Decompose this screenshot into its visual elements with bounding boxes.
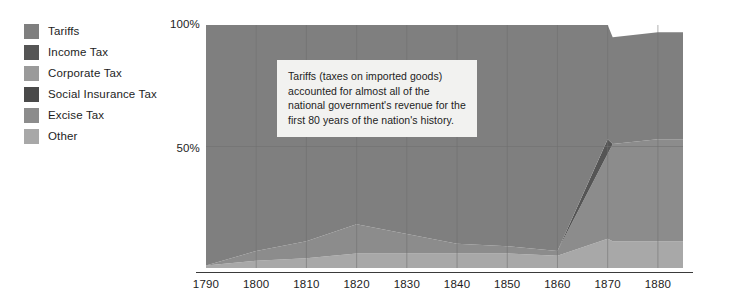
legend-swatch-icon [24, 66, 39, 81]
x-axis-tick-1790: 1790 [193, 278, 219, 290]
x-axis-tick-1870: 1870 [594, 278, 620, 290]
x-axis-tick-1860: 1860 [544, 278, 570, 290]
x-axis-tick-1880: 1880 [645, 278, 671, 290]
y-axis-tick-100: 100% [140, 18, 200, 30]
legend-swatch-icon [24, 45, 39, 60]
legend-item-excise-tax[interactable]: Excise Tax [24, 106, 184, 124]
chart-page: TariffsIncome TaxCorporate TaxSocial Ins… [0, 0, 740, 308]
legend-item-social-insurance-tax[interactable]: Social Insurance Tax [24, 85, 184, 103]
x-axis-tick-1810: 1810 [293, 278, 319, 290]
legend-item-label: Tariffs [48, 24, 80, 39]
legend-item-label: Excise Tax [48, 108, 104, 123]
chart-annotation-callout: Tariffs (taxes on imported goods) accoun… [277, 60, 477, 137]
y-axis-tick-50: 50% [140, 142, 200, 154]
legend-item-label: Corporate Tax [48, 66, 122, 81]
legend-item-label: Other [48, 129, 78, 144]
chart-annotation-text: Tariffs (taxes on imported goods) accoun… [288, 69, 466, 127]
legend-item-label: Income Tax [48, 45, 108, 60]
x-axis-tick-1820: 1820 [343, 278, 369, 290]
chart-legend: TariffsIncome TaxCorporate TaxSocial Ins… [24, 22, 184, 148]
x-axis-tick-1850: 1850 [494, 278, 520, 290]
x-axis-tick-1840: 1840 [444, 278, 470, 290]
legend-item-corporate-tax[interactable]: Corporate Tax [24, 64, 184, 82]
x-axis-ticks: 1790180018101820183018401850186018701880 [206, 278, 683, 298]
legend-swatch-icon [24, 108, 39, 123]
legend-swatch-icon [24, 87, 39, 102]
x-axis-line [196, 272, 693, 273]
x-axis-tick-1800: 1800 [243, 278, 269, 290]
legend-swatch-icon [24, 129, 39, 144]
x-axis-tick-1830: 1830 [394, 278, 420, 290]
legend-swatch-icon [24, 24, 39, 39]
legend-item-label: Social Insurance Tax [48, 87, 157, 102]
legend-item-income-tax[interactable]: Income Tax [24, 43, 184, 61]
